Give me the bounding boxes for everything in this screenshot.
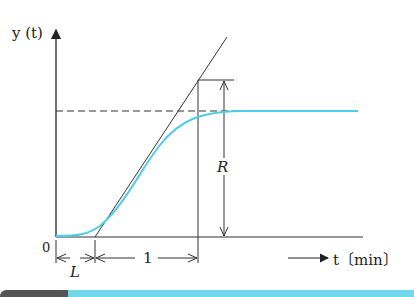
bottom-bar [0,290,414,297]
y-axis-label: y (t) [12,24,43,42]
dead-time-label: L [70,263,80,281]
response-curve [56,111,358,236]
reaction-label: R [217,158,228,176]
x-axis-label: t〔min〕 [333,248,398,269]
unit-interval-label: 1 [143,249,153,267]
bottom-bar-dark [0,290,68,297]
origin-label: 0 [42,240,50,255]
bottom-bar-accent [68,290,414,297]
tangent-line [95,37,227,237]
